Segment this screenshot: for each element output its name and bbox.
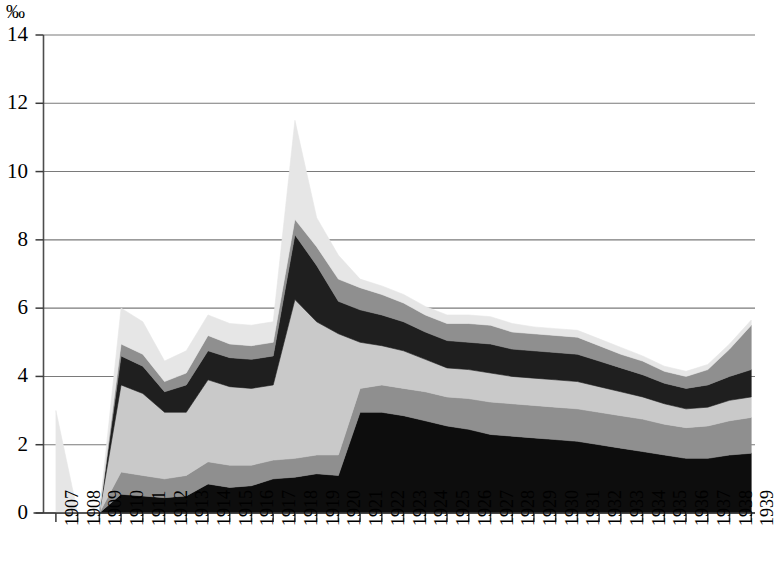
x-axis-tick-label: 1933 [628, 490, 646, 526]
x-axis-tick-label: 1907 [63, 490, 81, 526]
x-axis-tick-label: 1912 [172, 490, 190, 526]
x-axis-tick-label: 1916 [258, 490, 276, 526]
x-axis-tick-label: 1921 [367, 490, 385, 526]
x-axis-tick-label: 1923 [411, 490, 429, 526]
x-axis-tick-label: 1909 [106, 490, 124, 526]
x-axis-tick-label: 1915 [237, 490, 255, 526]
y-axis-tick-label: 12 [0, 92, 28, 113]
area-series-group [56, 120, 751, 513]
x-axis-tick-label: 1930 [563, 490, 581, 526]
y-axis-tick-label: 8 [0, 229, 28, 250]
x-axis-tick-label: 1937 [715, 490, 733, 526]
x-axis-tick-label: 1925 [454, 490, 472, 526]
y-axis-tick-label: 10 [0, 161, 28, 182]
x-axis-tick-label: 1917 [280, 490, 298, 526]
x-axis-tick-label: 1918 [302, 490, 320, 526]
x-axis-tick-label: 1922 [389, 490, 407, 526]
y-axis-tick-label: 4 [0, 365, 28, 386]
x-axis-tick-label: 1924 [432, 490, 450, 526]
x-axis-tick-label: 1932 [606, 490, 624, 526]
x-axis-tick-label: 1919 [324, 490, 342, 526]
x-axis-tick-label: 1928 [519, 490, 537, 526]
x-axis-tick-label: 1939 [758, 490, 776, 526]
x-axis-tick-label: 1936 [693, 490, 711, 526]
x-axis-tick-label: 1914 [215, 490, 233, 526]
y-axis-tick-label: 2 [0, 434, 28, 455]
y-axis-tick-label: 6 [0, 297, 28, 318]
x-axis-tick-label: 1908 [85, 490, 103, 526]
y-axis-ticks-group [36, 35, 44, 513]
x-axis-tick-label: 1913 [193, 490, 211, 526]
y-axis-tick-label: 14 [0, 24, 28, 45]
x-axis-tick-label: 1931 [584, 490, 602, 526]
x-axis-tick-label: 1929 [541, 490, 559, 526]
x-axis-tick-label: 1927 [498, 490, 516, 526]
x-axis-tick-label: 1935 [671, 490, 689, 526]
y-axis-tick-label: 0 [0, 502, 28, 523]
x-axis-tick-label: 1911 [150, 491, 168, 526]
x-axis-tick-label: 1934 [650, 490, 668, 526]
x-axis-tick-label: 1926 [476, 490, 494, 526]
x-axis-tick-label: 1920 [345, 490, 363, 526]
x-axis-tick-label: 1938 [737, 490, 755, 526]
x-axis-tick-label: 1910 [128, 490, 146, 526]
